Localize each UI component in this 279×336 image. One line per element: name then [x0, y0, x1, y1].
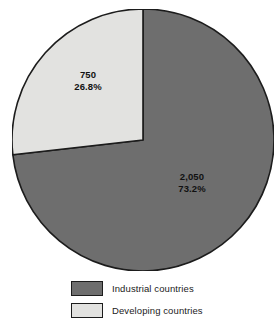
legend-label-industrial-countries: Industrial countries [112, 283, 194, 294]
slice-label-developing-countries: 750 26.8% [56, 69, 120, 92]
legend-item-industrial-countries[interactable]: Industrial countries [71, 280, 271, 297]
legend-swatch-industrial-countries [71, 281, 103, 296]
slice-percent-industrial-countries: 73.2% [160, 183, 224, 195]
slice-value-developing-countries: 750 [56, 69, 120, 81]
slice-value-industrial-countries: 2,050 [160, 171, 224, 183]
legend-label-developing-countries: Developing countries [112, 305, 203, 316]
clipped-chart-title: Sources of funds [0, 0, 279, 4]
legend-item-developing-countries[interactable]: Developing countries [71, 302, 271, 319]
chart-legend: Industrial countries Developing countrie… [71, 280, 271, 324]
legend-swatch-developing-countries [71, 303, 103, 318]
pie-svg [12, 9, 274, 271]
slice-label-industrial-countries: 2,050 73.2% [160, 171, 224, 194]
pie-chart-figure: Sources of funds 750 26.8% 2,050 73.2% I… [0, 0, 279, 336]
slice-percent-developing-countries: 26.8% [56, 81, 120, 93]
pie-chart-graphic [12, 9, 274, 271]
